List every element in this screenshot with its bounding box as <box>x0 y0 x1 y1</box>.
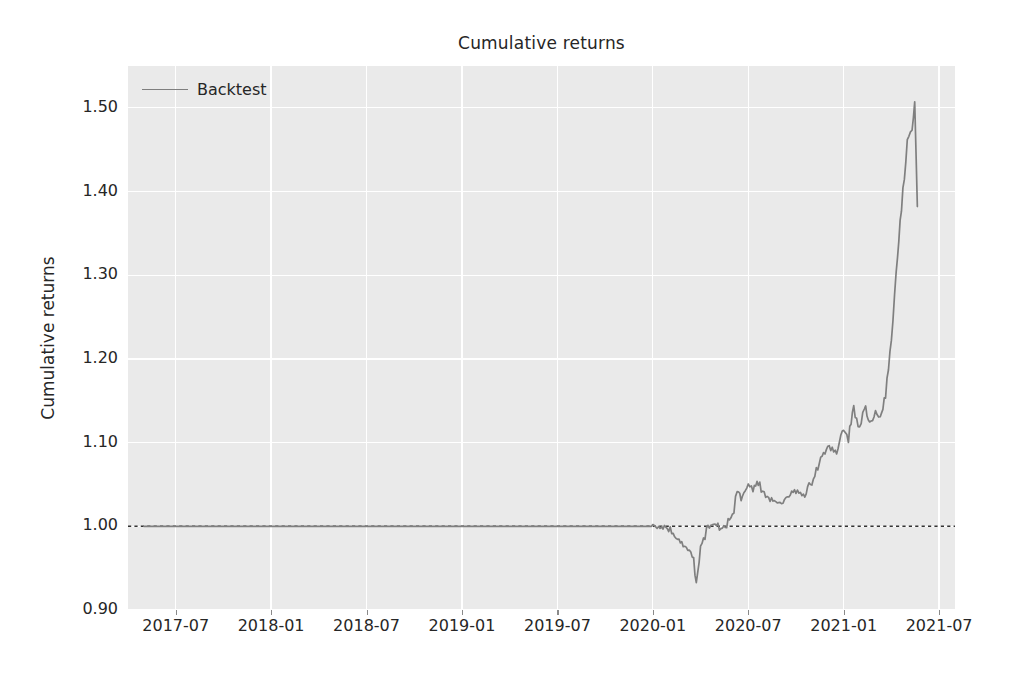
y-tick-label: 1.10 <box>48 432 118 451</box>
x-tick-mark <box>844 610 845 615</box>
x-tick-mark <box>557 610 558 615</box>
x-tick-label: 2017-07 <box>121 616 231 635</box>
x-tick-label: 2020-07 <box>693 616 803 635</box>
plot-area: Backtest <box>128 66 955 610</box>
x-tick-mark <box>271 610 272 615</box>
chart-title: Cumulative returns <box>128 33 955 53</box>
chart-figure: Cumulative returns Cumulative returns 1.… <box>0 0 1017 681</box>
x-tick-label: 2018-07 <box>312 616 422 635</box>
y-tick-label: 1.30 <box>48 264 118 283</box>
data-series-layer <box>128 66 955 610</box>
x-tick-label: 2021-07 <box>884 616 994 635</box>
y-tick-label: 1.40 <box>48 181 118 200</box>
x-tick-mark <box>939 610 940 615</box>
y-tick-label: 1.50 <box>48 97 118 116</box>
x-tick-mark <box>653 610 654 615</box>
y-tick-label: 1.20 <box>48 348 118 367</box>
x-tick-mark <box>176 610 177 615</box>
y-tick-label: 1.00 <box>48 515 118 534</box>
series-line-backtest <box>144 102 917 583</box>
x-tick-mark <box>367 610 368 615</box>
x-tick-label: 2021-01 <box>789 616 899 635</box>
x-tick-mark <box>462 610 463 615</box>
x-tick-label: 2019-01 <box>407 616 517 635</box>
x-tick-label: 2020-01 <box>598 616 708 635</box>
x-tick-mark <box>748 610 749 615</box>
x-tick-label: 2019-07 <box>502 616 612 635</box>
y-tick-label: 0.90 <box>48 599 118 618</box>
x-tick-label: 2018-01 <box>216 616 326 635</box>
